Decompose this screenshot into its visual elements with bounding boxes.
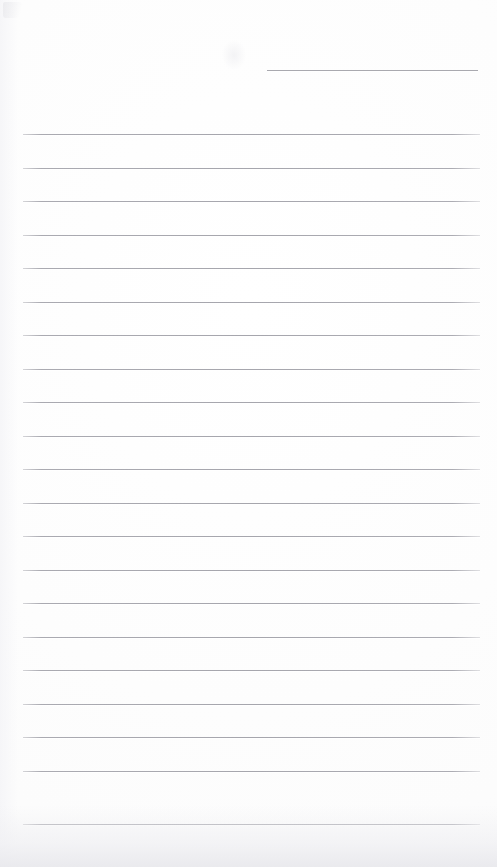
scan-artifact-mid-icon	[222, 40, 246, 70]
ruled-line	[23, 134, 480, 135]
header-rule	[267, 70, 478, 71]
ruled-line	[23, 670, 480, 671]
ruled-line	[23, 268, 480, 269]
ruled-line	[23, 369, 480, 370]
scan-left-shadow	[0, 0, 18, 867]
ruled-line	[23, 570, 480, 571]
ruled-line	[23, 603, 480, 604]
ruled-line	[23, 824, 480, 825]
ruled-line	[23, 201, 480, 202]
ruled-line	[23, 335, 480, 336]
ruled-line	[23, 737, 480, 738]
ruled-line	[23, 469, 480, 470]
ruled-line	[23, 302, 480, 303]
ruled-line	[23, 436, 480, 437]
ruled-line	[23, 503, 480, 504]
ruled-line	[23, 168, 480, 169]
scan-artifact-topleft-icon	[3, 2, 25, 18]
ruled-line	[23, 771, 480, 772]
ruled-line	[23, 637, 480, 638]
ruled-line	[23, 536, 480, 537]
scanned-page	[0, 0, 497, 867]
scan-bottom-shadow	[0, 805, 497, 867]
ruled-line	[23, 235, 480, 236]
ruled-line	[23, 704, 480, 705]
ruled-line	[23, 402, 480, 403]
